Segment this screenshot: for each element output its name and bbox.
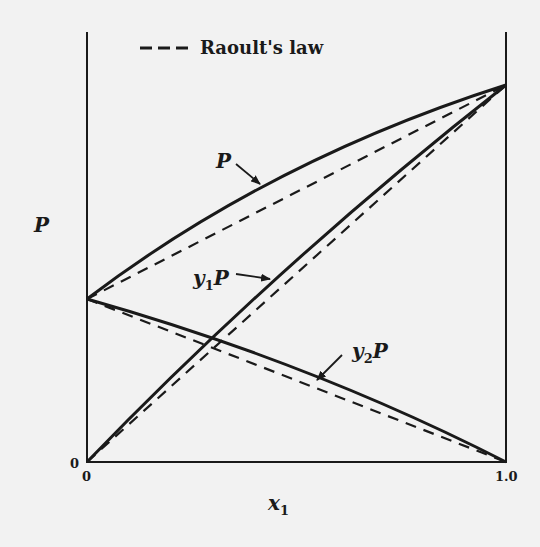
raoult-y1P-line: [87, 85, 506, 462]
annotation-y1P-label: y1P: [192, 266, 230, 293]
raoult-lines: [87, 85, 506, 462]
vapor-pressure-chart: Raoult's law P: [0, 0, 540, 547]
raoult-P-line: [87, 85, 506, 299]
raoult-y2P-line: [87, 299, 506, 462]
x-tick-0: 0: [82, 469, 91, 484]
chart-svg: Raoult's law P: [0, 0, 540, 547]
annotation-y1P: y1P: [192, 266, 270, 293]
annotation-P: P: [215, 149, 260, 184]
annotation-P-arrow: [236, 164, 260, 184]
annotation-y2P-arrow: [317, 355, 342, 380]
legend: Raoult's law: [140, 37, 324, 58]
y-axis-label: P: [33, 213, 50, 237]
y-tick-0: 0: [70, 456, 79, 471]
annotation-P-label: P: [215, 149, 232, 173]
annotation-y1P-arrow: [236, 274, 270, 279]
annotation-y2P: y2P: [317, 339, 389, 380]
x-tick-1: 1.0: [495, 469, 518, 484]
legend-label: Raoult's law: [200, 37, 324, 58]
annotation-y2P-label: y2P: [351, 339, 389, 366]
x-axis-label: x1: [267, 491, 289, 518]
